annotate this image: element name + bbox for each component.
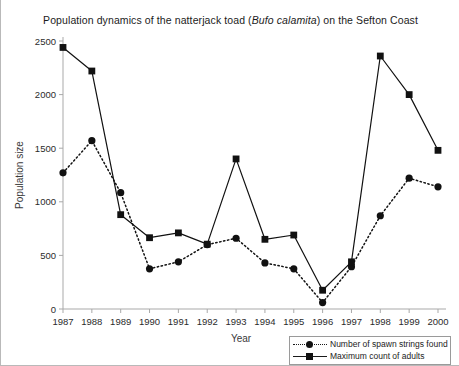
data-point-circle [88,137,95,144]
y-tick-label: 1500 [35,143,56,154]
y-tick-label: 500 [40,250,56,261]
data-point-circle [319,299,326,306]
data-series-group [59,44,441,306]
data-point-square [204,241,211,248]
data-point-circle [261,259,268,266]
data-point-circle [232,235,239,242]
legend-key-square-solid [293,351,327,362]
data-point-square [233,156,240,163]
x-tick-label: 1989 [110,316,131,327]
y-axis-title: Population size [14,141,25,209]
y-tick-label: 1000 [35,196,56,207]
data-point-square [406,91,413,98]
x-tick-label: 1998 [370,316,391,327]
x-tick-label: 2000 [427,316,448,327]
series-line-2 [63,47,438,290]
legend-key-circle-dotted [293,339,327,350]
data-point-square [88,68,95,75]
x-tick-label: 1997 [341,316,362,327]
x-tick-label: 1988 [81,316,102,327]
x-tick-label: 1994 [254,316,275,327]
data-point-square [377,53,384,60]
x-axis: 1987198819891990199119921993199419951996… [52,309,448,327]
circle-marker-icon [306,341,313,348]
y-tick-label: 2000 [35,89,56,100]
data-point-square [348,258,355,265]
series-line-1 [63,141,438,303]
data-point-square [175,229,182,236]
y-axis: 05001000150020002500 [35,36,63,315]
chart-legend: Number of spawn strings found Maximum co… [289,336,451,365]
x-tick-label: 1992 [197,316,218,327]
x-tick-label: 1993 [226,316,247,327]
data-point-circle [290,265,297,272]
square-marker-icon [306,353,313,360]
x-axis-title: Year [231,333,252,344]
data-point-circle [377,212,384,219]
chart-plot-area: 05001000150020002500 1987198819891990199… [1,0,459,366]
data-point-square [262,236,269,243]
data-point-square [146,234,153,241]
x-tick-label: 1987 [52,316,73,327]
data-point-circle [406,175,413,182]
data-point-square [319,287,326,294]
data-point-square [290,232,297,239]
x-tick-label: 1990 [139,316,160,327]
x-tick-label: 1999 [399,316,420,327]
chart-figure: Population dynamics of the natterjack to… [0,0,459,366]
legend-item-adults: Maximum count of adults [293,350,447,362]
legend-item-spawn-strings: Number of spawn strings found [293,338,447,350]
data-point-square [117,211,124,218]
x-tick-label: 1996 [312,316,333,327]
data-point-circle [59,169,66,176]
data-point-circle [117,189,124,196]
data-point-circle [146,265,153,272]
y-tick-label: 2500 [35,36,56,47]
data-point-circle [434,183,441,190]
data-point-circle [175,258,182,265]
data-point-square [60,44,67,51]
legend-label-spawn-strings: Number of spawn strings found [330,339,448,349]
x-tick-label: 1995 [283,316,304,327]
y-tick-label: 0 [51,304,56,315]
x-tick-label: 1991 [168,316,189,327]
data-point-square [435,147,442,154]
legend-label-adults: Maximum count of adults [330,351,424,361]
